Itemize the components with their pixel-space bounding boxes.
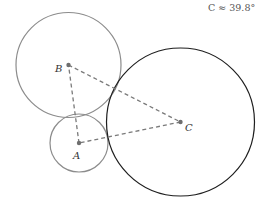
point-b bbox=[66, 63, 70, 67]
angle-c-annotation: C ≈ 39.8° bbox=[208, 2, 255, 13]
segment-ca bbox=[79, 122, 181, 143]
point-a bbox=[77, 141, 81, 145]
segment-ab bbox=[69, 65, 80, 143]
point-c bbox=[178, 120, 182, 124]
tangent-circles-diagram: A B C C ≈ 39.8° bbox=[0, 0, 263, 201]
label-b: B bbox=[54, 63, 62, 74]
label-a: A bbox=[72, 150, 80, 161]
label-c: C bbox=[185, 122, 193, 133]
